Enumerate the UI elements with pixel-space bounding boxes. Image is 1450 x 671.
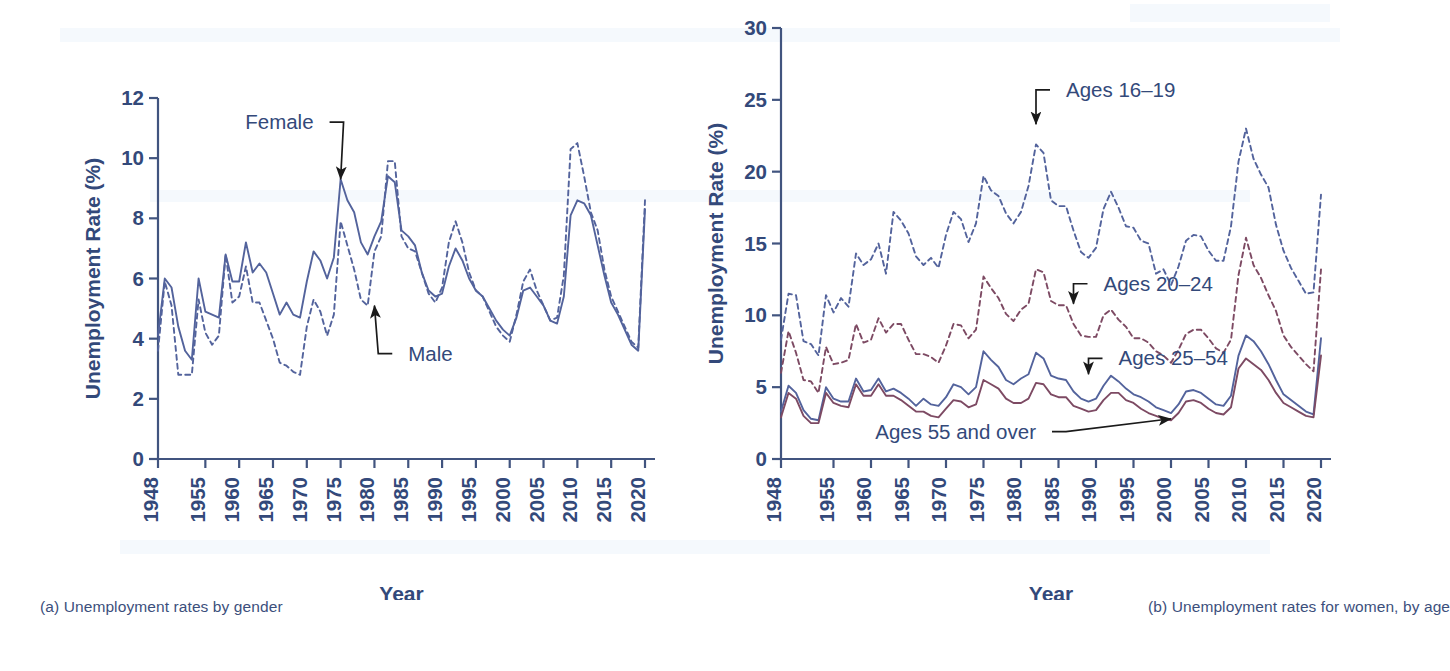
x-tick-label: 1960: [852, 477, 875, 523]
y-tick-label: 25: [744, 88, 767, 111]
caption-panel-a: (a) Unemployment rates by gender: [40, 598, 283, 616]
y-axis-title: Unemployment Rate (%): [704, 123, 727, 365]
y-tick-label: 2: [133, 387, 144, 410]
annotation-label: Ages 20–24: [1104, 272, 1213, 295]
x-tick-label: 2020: [626, 477, 649, 523]
x-axis-title: Year: [379, 582, 423, 600]
annotation-leader-0: [1036, 90, 1050, 124]
series-line-1: [158, 143, 645, 375]
annotation-label: Ages 16–19: [1066, 78, 1175, 101]
y-tick-label: 0: [133, 447, 144, 470]
annotation-leader-1: [374, 306, 392, 354]
x-tick-label: 1990: [1077, 477, 1100, 523]
annotation-leader-0: [330, 122, 344, 179]
y-tick-label: 0: [756, 447, 767, 470]
x-tick-label: 2015: [592, 477, 615, 523]
y-tick-label: 15: [744, 232, 767, 255]
x-tick-label: 2010: [1227, 477, 1250, 523]
y-tick-label: 6: [133, 267, 144, 290]
x-tick-label: 2000: [491, 477, 514, 523]
annotation-leader-2: [1089, 358, 1103, 374]
y-tick-label: 5: [756, 375, 767, 398]
chart-b-svg: 0510152025301948195519601965197019751980…: [693, 0, 1387, 600]
x-tick-label: 1955: [186, 477, 209, 523]
x-tick-label: 2010: [558, 477, 581, 523]
x-tick-label: 1970: [927, 477, 950, 523]
x-tick-label: 2020: [1302, 477, 1325, 523]
x-tick-label: 2000: [1152, 477, 1175, 523]
series-line-2: [781, 335, 1321, 420]
x-tick-label: 1985: [389, 477, 412, 523]
x-tick-label: 1990: [423, 477, 446, 523]
series-line-0: [781, 129, 1321, 356]
caption-panel-b: (b) Unemployment rates for women, by age: [1148, 598, 1450, 616]
x-tick-label: 1980: [355, 477, 378, 523]
x-tick-label: 1965: [254, 477, 277, 523]
x-tick-label: 1975: [322, 477, 345, 523]
y-tick-label: 10: [744, 303, 767, 326]
x-tick-label: 1995: [457, 477, 480, 523]
x-tick-label: 2005: [525, 477, 548, 523]
x-tick-label: 1980: [1002, 477, 1025, 523]
x-tick-label: 1970: [288, 477, 311, 523]
annotation-leader-3: [1052, 419, 1171, 432]
x-tick-label: 1960: [220, 477, 243, 523]
annotation-leader-1: [1074, 284, 1088, 304]
x-tick-label: 1948: [762, 477, 785, 523]
x-tick-label: 1955: [815, 477, 838, 523]
x-axis-title: Year: [1029, 582, 1073, 600]
y-tick-label: 20: [744, 160, 767, 183]
chart-panel-b: 0510152025301948195519601965197019751980…: [693, 0, 1387, 671]
x-tick-label: 1985: [1040, 477, 1063, 523]
annotation-label: Male: [408, 342, 452, 365]
y-tick-label: 10: [121, 146, 144, 169]
series-line-0: [158, 176, 645, 360]
x-tick-label: 1948: [139, 477, 162, 523]
x-tick-label: 2015: [1265, 477, 1288, 523]
y-tick-label: 12: [121, 86, 144, 109]
chart-a-svg: 0246810121948195519601965197019751980198…: [0, 0, 693, 600]
y-tick-label: 8: [133, 206, 144, 229]
y-axis-title: Unemployment Rate (%): [81, 158, 104, 400]
annotation-label: Female: [245, 110, 313, 133]
annotation-label: Ages 25–54: [1119, 346, 1228, 369]
annotation-label: Ages 55 and over: [875, 420, 1036, 443]
x-tick-label: 1975: [965, 477, 988, 523]
x-tick-label: 2005: [1190, 477, 1213, 523]
x-tick-label: 1995: [1115, 477, 1138, 523]
x-tick-label: 1965: [890, 477, 913, 523]
chart-panel-a: 0246810121948195519601965197019751980198…: [0, 0, 693, 671]
y-tick-label: 4: [133, 327, 145, 350]
y-tick-label: 30: [744, 16, 767, 39]
